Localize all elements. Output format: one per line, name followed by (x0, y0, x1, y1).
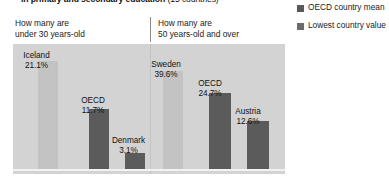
panel-heading-line-2: 50 years-old and over (158, 29, 283, 40)
bar-label-value: 12.6% (222, 117, 274, 127)
legend-item-lowest-country-value: Lowest country value (297, 20, 389, 35)
panel-divider-top (150, 17, 151, 42)
bar-label-name: OECD (185, 79, 235, 89)
legend-item-label: Lowest country value (308, 20, 386, 31)
chart-figure: in primary and secondary education (15 c… (0, 0, 389, 191)
bar-sweden (163, 71, 183, 169)
bar-label-austria: Austria 12.6% (222, 107, 274, 126)
bar-label-name: Denmark (101, 136, 156, 146)
legend-item-oecd-country-mean: OECD country mean (297, 2, 389, 17)
legend: OECD country mean Lowest country value (297, 2, 389, 38)
bar-label-denmark: Denmark 3.1% (101, 136, 156, 155)
bar-label-name: Austria (222, 107, 274, 117)
bar-label-sweden: Sweden 39.6% (140, 60, 192, 79)
bar-iceland (38, 61, 58, 169)
bar-denmark (125, 153, 145, 169)
legend-swatch-icon (297, 23, 304, 30)
figure-title-main: in primary and secondary education (21, 0, 165, 4)
legend-swatch-icon (297, 5, 304, 12)
legend-item-label: OECD country mean (308, 2, 385, 13)
bar-label-value: 3.1% (101, 146, 156, 156)
bar-label-value: 24.7% (185, 89, 235, 99)
bar-label-iceland: Iceland 21.1% (14, 51, 59, 70)
panel-heading-line-1: How many are (158, 18, 283, 29)
bar-austria (247, 121, 269, 169)
panel-heading-50-and-over: How many are 50 years-old and over (158, 18, 283, 39)
bar-label-oecd-under-30: OECD 11.7% (68, 96, 118, 115)
bar-label-name: Iceland (14, 51, 59, 61)
bar-label-value: 21.1% (14, 61, 59, 71)
bar-label-oecd-50-over: OECD 24.7% (185, 79, 235, 98)
bar-label-value: 11.7% (68, 106, 118, 116)
figure-title: in primary and secondary education (15 c… (21, 0, 271, 6)
bar-label-name: Sweden (140, 60, 192, 70)
panel-heading-under-30: How many are under 30 years-old (15, 18, 140, 39)
panel-heading-line-1: How many are (15, 18, 140, 29)
figure-title-count: (15 countries) (167, 0, 218, 4)
bar-label-value: 39.6% (140, 70, 192, 80)
panel-heading-line-2: under 30 years-old (15, 29, 140, 40)
bar-label-name: OECD (68, 96, 118, 106)
baseline-axis (13, 169, 285, 171)
bar-oecd-50-over (209, 93, 231, 169)
